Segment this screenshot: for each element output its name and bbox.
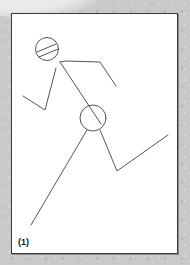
left-leg xyxy=(31,130,87,225)
figure-label: (1) xyxy=(18,237,29,247)
head-icon xyxy=(36,38,59,61)
right-leg xyxy=(100,130,168,171)
figure-panel: (1) xyxy=(11,13,178,254)
stick-figure-drawing xyxy=(12,14,177,253)
torso xyxy=(60,61,116,124)
left-arm xyxy=(23,68,56,110)
pelvis-circle xyxy=(80,105,106,131)
